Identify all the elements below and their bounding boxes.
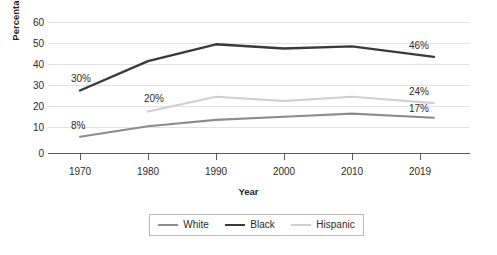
data-label-hispanic-1980: 20% [144,94,164,104]
legend-item-white[interactable]: White [158,220,209,230]
x-axis-title: Year [0,186,497,197]
legend-swatch-black-icon [225,224,245,226]
x-tick-label-2000: 2000 [262,167,306,177]
series-line-white [80,114,434,137]
x-axis-ticks [81,154,421,160]
data-label-hispanic-2019: 24% [409,87,429,97]
x-tick-label-1980: 1980 [126,167,170,177]
legend-label-black: Black [250,220,274,230]
legend-item-black[interactable]: Black [225,220,274,230]
data-label-white-2019: 17% [409,104,429,114]
series-line-black [80,44,434,90]
x-tick-label-2019: 2019 [398,167,442,177]
chart-legend: White Black Hispanic [149,214,364,236]
legend-item-hispanic[interactable]: Hispanic [291,220,354,230]
series-line-hispanic [148,97,434,112]
legend-label-hispanic: Hispanic [316,220,354,230]
data-label-black-2019: 46% [409,41,429,51]
legend-label-white: White [183,220,209,230]
data-label-white-1970: 8% [71,121,85,131]
data-label-black-1970: 30% [71,74,91,84]
x-tick-label-1990: 1990 [194,167,238,177]
x-tick-label-2010: 2010 [330,167,374,177]
legend-swatch-white-icon [158,224,178,226]
legend-swatch-hispanic-icon [291,224,311,226]
gridlines [48,23,470,128]
line-chart: Percentage 60 50 40 30 20 10 0 [0,0,497,255]
x-tick-label-1970: 1970 [58,167,102,177]
